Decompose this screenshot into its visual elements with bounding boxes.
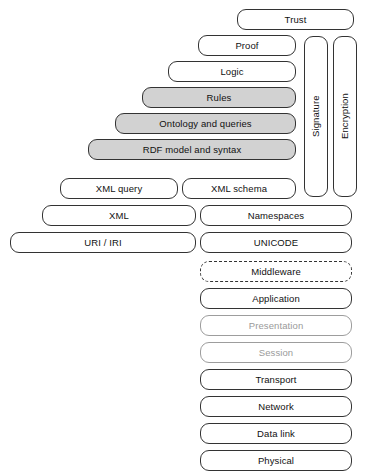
layer-box-xmlschema: XML schema [182,178,296,199]
layer-box-ontology: Ontology and queries [115,113,296,134]
layer-label-proof: Proof [235,41,258,51]
layer-box-network: Network [200,396,352,417]
layer-box-transport: Transport [200,369,352,390]
layer-box-datalink: Data link [200,423,352,444]
layer-label-application: Application [252,294,300,304]
layer-box-uriiri: URI / IRI [10,232,196,253]
layer-label-logic: Logic [220,67,243,77]
layer-box-rdf: RDF model and syntax [88,139,296,160]
layer-box-encryption: Encryption [333,36,357,197]
layer-box-trust: Trust [237,9,354,30]
layer-label-ontology: Ontology and queries [159,119,251,129]
layer-box-xml: XML [42,205,196,226]
layer-label-uriiri: URI / IRI [84,238,121,248]
semantic-web-stack-diagram: TrustProofLogicRulesOntology and queries… [0,0,366,471]
layer-label-namespaces: Namespaces [248,211,304,221]
layer-label-physical: Physical [258,456,294,466]
layer-label-xmlschema: XML schema [211,184,267,194]
layer-label-xml: XML [109,211,129,221]
layer-label-rules: Rules [207,93,232,103]
layer-label-middleware: Middleware [251,267,301,277]
layer-label-datalink: Data link [257,429,295,439]
layer-box-unicode: UNICODE [200,232,352,253]
layer-label-signature: Signature [311,96,321,138]
layer-box-proof: Proof [198,35,296,56]
layer-box-rules: Rules [142,87,296,108]
layer-label-trust: Trust [285,15,307,25]
layer-box-logic: Logic [168,61,296,82]
layer-box-signature: Signature [304,36,328,197]
layer-box-application: Application [200,288,352,309]
layer-box-middleware: Middleware [200,261,352,282]
layer-label-presentation: Presentation [249,321,304,331]
layer-label-encryption: Encryption [340,94,350,140]
layer-box-xmlquery: XML query [60,178,178,199]
layer-label-transport: Transport [255,375,296,385]
layer-box-physical: Physical [200,450,352,471]
layer-box-presentation: Presentation [200,315,352,336]
layer-label-rdf: RDF model and syntax [143,145,242,155]
layer-label-xmlquery: XML query [96,184,142,194]
layer-label-unicode: UNICODE [254,238,299,248]
layer-box-session: Session [200,342,352,363]
layer-box-namespaces: Namespaces [200,205,352,226]
layer-label-network: Network [258,402,294,412]
layer-label-session: Session [259,348,294,358]
